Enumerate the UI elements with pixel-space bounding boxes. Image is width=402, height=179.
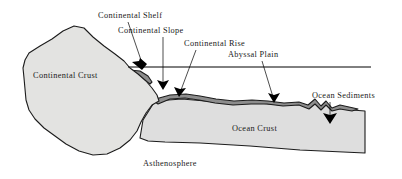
continental-crust-body <box>23 26 159 155</box>
label-continental-crust: Continental Crust <box>33 71 98 80</box>
label-continental-shelf: Continental Shelf <box>98 11 162 20</box>
arrow-continental-shelf <box>132 58 147 70</box>
leader-abyssal-plain <box>262 61 273 97</box>
label-continental-rise: Continental Rise <box>184 39 245 48</box>
leader-continental-rise <box>181 50 196 90</box>
label-continental-slope: Continental Slope <box>118 26 184 35</box>
label-ocean-crust: Ocean Crust <box>232 124 277 133</box>
continental-margin-cross-section: Continental Shelf Continental Slope Cont… <box>0 0 402 179</box>
label-asthenosphere: Asthenosphere <box>143 159 197 168</box>
diagram-canvas: Continental Shelf Continental Slope Cont… <box>0 0 402 179</box>
label-abyssal-plain: Abyssal Plain <box>228 50 279 59</box>
label-ocean-sediments: Ocean Sediments <box>312 91 375 100</box>
